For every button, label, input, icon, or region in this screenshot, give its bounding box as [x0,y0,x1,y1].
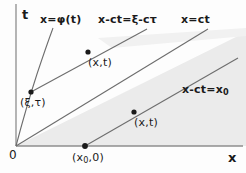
boundary-curve-label: x=φ(t) [40,14,81,25]
boundary-curve-phi [16,28,53,146]
point-label-x0-axis: (x0,0) [72,152,104,164]
point-label-x0-axis-prefix: (x [72,151,83,164]
point-label-lower-xt: (x,t) [134,117,158,128]
characteristic-xi-label: x-ct=ξ-cτ [98,14,157,25]
point-label-upper-xt: (x,t) [88,57,112,68]
characteristic-diagram-figure: t x 0 x=φ(t) x-ct=ξ-cτ x=ct x-ct=x0 (ξ,τ… [0,0,246,173]
origin-label: 0 [9,149,17,161]
x-axis-label: x [228,151,237,164]
point-marker-lower-xt [131,109,136,114]
point-marker-upper-xt [85,49,90,54]
characteristic-x0-label-text: x-ct=x [182,83,223,96]
characteristic-x0-label: x-ct=x0 [182,84,229,96]
t-axis-label: t [22,8,28,21]
point-label-xi-tau: (ξ,τ) [20,97,46,108]
point-marker-x0-axis [82,143,88,149]
point-marker-xi-tau [28,89,33,94]
characteristic-ct-label: x=ct [181,14,210,25]
characteristic-x0-label-subscript: 0 [223,87,229,97]
point-label-x0-axis-suffix: ,0) [89,151,104,164]
